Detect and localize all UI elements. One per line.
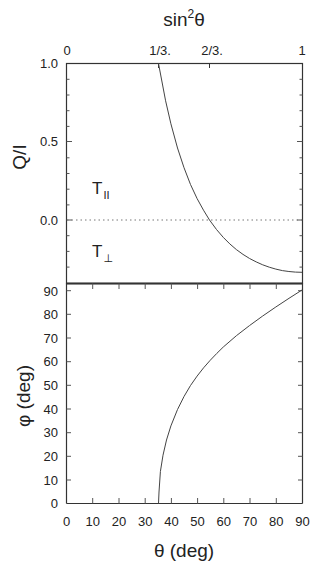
qi-curve bbox=[159, 64, 303, 273]
svg-text:60: 60 bbox=[217, 514, 231, 529]
theta-xtick-labels: 0 10 20 30 40 50 60 70 80 90 bbox=[63, 514, 310, 529]
qi-ytick-0.0: 0.0 bbox=[40, 213, 58, 228]
svg-text:70: 70 bbox=[44, 331, 58, 346]
t-perp-label: T⊥ bbox=[92, 242, 113, 264]
svg-text:10: 10 bbox=[44, 473, 58, 488]
svg-text:10: 10 bbox=[85, 514, 99, 529]
svg-text:40: 40 bbox=[164, 514, 178, 529]
svg-text:0: 0 bbox=[63, 514, 70, 529]
svg-text:90: 90 bbox=[295, 514, 309, 529]
svg-text:70: 70 bbox=[243, 514, 257, 529]
theta-xlabel: θ (deg) bbox=[154, 540, 214, 561]
top-tick-1-3: 1/3. bbox=[149, 43, 171, 58]
svg-text:30: 30 bbox=[44, 425, 58, 440]
qi-ylabel: Q/I bbox=[9, 144, 30, 169]
svg-text:20: 20 bbox=[44, 449, 58, 464]
svg-text:60: 60 bbox=[44, 354, 58, 369]
phi-curve bbox=[159, 290, 303, 504]
theta-ticks bbox=[93, 284, 277, 504]
bottom-panel bbox=[67, 284, 303, 504]
svg-text:80: 80 bbox=[44, 307, 58, 322]
svg-text:50: 50 bbox=[190, 514, 204, 529]
top-tick-2-3: 2/3. bbox=[201, 43, 223, 58]
phi-ylabel: φ (deg) bbox=[13, 365, 34, 427]
qi-ticks-right bbox=[297, 79, 303, 267]
svg-text:40: 40 bbox=[44, 402, 58, 417]
qi-ytick-0.5: 0.5 bbox=[40, 134, 58, 149]
top-axis-title: sin2θ bbox=[163, 7, 205, 30]
svg-text:50: 50 bbox=[44, 378, 58, 393]
chart-figure: sin2θ 0 1/3. 2/3. 1 bbox=[0, 0, 318, 573]
top-tick-1: 1 bbox=[298, 43, 305, 58]
svg-text:20: 20 bbox=[112, 514, 126, 529]
phi-ytick-labels: 90 80 70 60 50 40 30 20 10 0 bbox=[44, 284, 58, 512]
qi-ytick-1.0: 1.0 bbox=[40, 56, 58, 71]
svg-text:30: 30 bbox=[138, 514, 152, 529]
qi-ticks-left bbox=[67, 79, 73, 267]
svg-text:0: 0 bbox=[51, 496, 58, 511]
top-tick-0: 0 bbox=[63, 43, 70, 58]
phi-ticks bbox=[67, 291, 303, 480]
t-parallel-label: TII bbox=[92, 179, 110, 201]
svg-text:80: 80 bbox=[269, 514, 283, 529]
svg-text:90: 90 bbox=[44, 284, 58, 299]
